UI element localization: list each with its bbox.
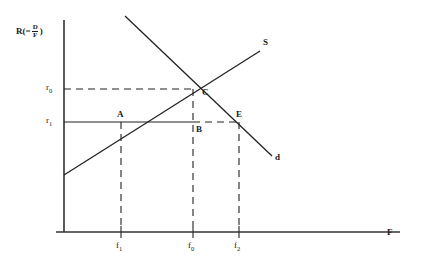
point-label-b: B — [196, 125, 202, 134]
point-label-c: C — [202, 88, 209, 97]
y-axis-label-denominator: F — [32, 31, 38, 39]
y-axis-label-suffix: ) — [40, 27, 43, 36]
supply-demand-plot — [0, 0, 422, 259]
x-tick-label-f0: f0 — [188, 241, 194, 252]
x-tick-label-f2: f2 — [234, 241, 240, 252]
supply-curve — [64, 51, 260, 175]
x-tick-f0-sub: 0 — [191, 245, 194, 252]
y-tick-r1-sub: 1 — [49, 120, 52, 127]
point-label-e: E — [236, 110, 242, 119]
x-tick-f2-sub: 2 — [237, 245, 240, 252]
x-tick-f1-sub: 1 — [119, 245, 122, 252]
point-label-a: A — [117, 110, 124, 119]
y-axis-label-prefix: R(= — [16, 27, 31, 36]
supply-curve-label: S — [263, 38, 268, 47]
y-tick-label-r0: r0 — [46, 83, 52, 94]
y-axis-label: R(= D F ) — [16, 24, 43, 39]
figure-canvas: R(= D F ) F S d r0 r1 f1 f0 f2 A B C E — [0, 0, 422, 259]
y-axis-label-fraction: D F — [32, 24, 39, 39]
y-tick-r0-sub: 0 — [49, 87, 52, 94]
demand-curve-label: d — [275, 153, 280, 162]
demand-curve — [125, 16, 272, 156]
y-axis-label-numerator: D — [32, 24, 39, 31]
x-axis-label: F — [387, 228, 393, 237]
x-tick-label-f1: f1 — [116, 241, 122, 252]
y-tick-label-r1: r1 — [46, 116, 52, 127]
